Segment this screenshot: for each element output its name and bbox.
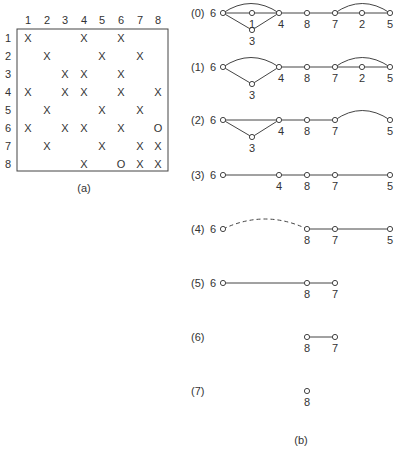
cell-mark-x: X: [80, 86, 88, 98]
graph-step-3: 6 4 8 7 5: [210, 169, 393, 192]
node-label: 2: [359, 72, 365, 84]
column-header: 2: [44, 14, 50, 26]
graph-step-7: 8: [304, 388, 310, 408]
matrix-part-a: 12345678 12345678 XXXXXXXXXXXXXXXXXXXXXO…: [5, 14, 168, 194]
cell-mark-x: X: [98, 104, 106, 116]
cell-mark-x: X: [24, 32, 32, 44]
cell-mark-o: O: [154, 122, 163, 134]
cell-mark-x: X: [136, 158, 144, 170]
graph-step-5: 6 8 7: [210, 277, 338, 300]
node-label: 6: [210, 169, 216, 181]
node-label: 3: [249, 142, 255, 154]
cell-mark-x: X: [117, 122, 125, 134]
cell-mark-o: O: [117, 158, 126, 170]
node-label: 4: [278, 18, 284, 30]
node-label: 5: [387, 18, 393, 30]
graph-step-0: 6 1 3 4 8 7 2 5: [210, 4, 393, 48]
cell-mark-x: X: [61, 86, 69, 98]
column-header: 3: [62, 14, 68, 26]
node-label: 8: [304, 125, 310, 137]
cell-mark-x: X: [117, 86, 125, 98]
graph-step-4: 6 8 7 5: [210, 219, 393, 246]
cell-mark-x: X: [136, 104, 144, 116]
step-label-0: (0): [191, 7, 204, 19]
step-label-2: (2): [191, 114, 204, 126]
cell-mark-x: X: [24, 86, 32, 98]
column-header: 5: [99, 14, 105, 26]
figure: 12345678 12345678 XXXXXXXXXXXXXXXXXXXXXO…: [0, 0, 400, 453]
caption-a: (a): [77, 182, 90, 194]
cell-mark-x: X: [136, 50, 144, 62]
cell-mark-x: X: [154, 158, 162, 170]
node-label: 8: [304, 180, 310, 192]
cell-mark-x: X: [80, 32, 88, 44]
node-label: 1: [249, 18, 255, 30]
node-label: 5: [387, 234, 393, 246]
cell-mark-x: X: [154, 86, 162, 98]
node-label: 7: [332, 18, 338, 30]
cell-mark-x: X: [24, 122, 32, 134]
node-label: 8: [304, 72, 310, 84]
node-label: 5: [387, 125, 393, 137]
cell-mark-x: X: [43, 140, 51, 152]
node-label: 8: [304, 288, 310, 300]
cell-mark-x: X: [43, 104, 51, 116]
step-label-4: (4): [191, 223, 204, 235]
matrix-border: [17, 29, 168, 171]
step-label-5: (5): [191, 277, 204, 289]
node-label: 7: [332, 180, 338, 192]
row-header: 6: [5, 122, 11, 134]
cell-mark-x: X: [117, 68, 125, 80]
cell-mark-x: X: [98, 140, 106, 152]
caption-b: (b): [294, 434, 307, 446]
row-header: 7: [5, 140, 11, 152]
step-label-3: (3): [191, 169, 204, 181]
row-header: 4: [5, 86, 11, 98]
cell-mark-x: X: [136, 140, 144, 152]
node-label: 6: [210, 114, 216, 126]
node-label: 8: [304, 234, 310, 246]
column-header: 6: [118, 14, 124, 26]
step-label-6: (6): [191, 331, 204, 343]
cell-mark-x: X: [80, 68, 88, 80]
cell-mark-x: X: [80, 158, 88, 170]
graphs-part-b: (0) (1) (2) (3) (4) (5) (6) (7) 6 1 3 4 …: [191, 4, 393, 447]
node-label: 4: [278, 72, 284, 84]
node-label: 5: [387, 72, 393, 84]
cell-mark-x: X: [98, 50, 106, 62]
cell-mark-x: X: [117, 32, 125, 44]
cell-mark-x: X: [43, 50, 51, 62]
column-header: 1: [25, 14, 31, 26]
node-label: 8: [304, 18, 310, 30]
column-header: 4: [81, 14, 87, 26]
graph-step-1: 6 3 4 8 7 2 5: [210, 58, 393, 102]
row-header: 3: [5, 68, 11, 80]
node-label: 3: [249, 35, 255, 47]
node-label: 6: [210, 7, 216, 19]
node-label: 7: [332, 342, 338, 354]
node-label: 2: [359, 18, 365, 30]
step-label-1: (1): [191, 61, 204, 73]
column-header: 7: [137, 14, 143, 26]
node-label: 6: [210, 277, 216, 289]
node-label: 5: [387, 180, 393, 192]
cell-mark-x: X: [80, 122, 88, 134]
matrix-column-headers: 12345678: [25, 14, 161, 26]
step-label-7: (7): [191, 385, 204, 397]
row-header: 8: [5, 158, 11, 170]
node-label: 4: [276, 180, 282, 192]
row-header: 2: [5, 50, 11, 62]
node-label: 7: [332, 72, 338, 84]
matrix-row-headers: 12345678: [5, 32, 11, 170]
node-label: 8: [304, 342, 310, 354]
row-header: 1: [5, 32, 11, 44]
node-label: 7: [332, 234, 338, 246]
graph-step-6: 8 7: [304, 334, 338, 354]
node-label: 8: [304, 396, 310, 408]
row-header: 5: [5, 104, 11, 116]
node-label: 3: [249, 89, 255, 101]
matrix-cells: XXXXXXXXXXXXXXXXXXXXXOXXXXXOXX: [24, 32, 162, 170]
node-label: 6: [210, 61, 216, 73]
node-label: 4: [278, 125, 284, 137]
node-label: 7: [332, 125, 338, 137]
